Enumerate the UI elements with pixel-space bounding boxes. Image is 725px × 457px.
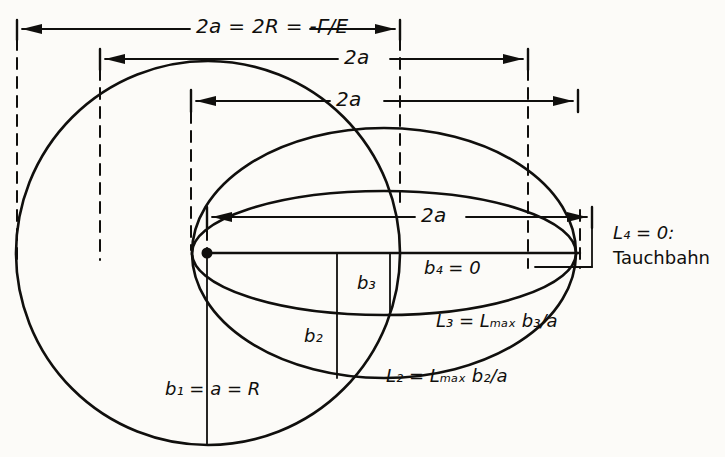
dimension-label-2: 2a xyxy=(344,45,370,69)
l4-annotation-line2: Tauchbahn xyxy=(613,247,710,268)
b3-label: b₃ xyxy=(357,272,376,293)
figure-canvas: 2a = 2R = -Γ/E 2a 2a 2a b₁ = a = R b₂ b₃… xyxy=(0,0,725,457)
dimension-label-3: 2a xyxy=(336,87,362,111)
l4-annotation-line1: L₄ = 0: xyxy=(613,222,674,243)
dimension-line-3 xyxy=(191,90,578,112)
dimension-label-4: 2a xyxy=(421,203,447,227)
dashed-reference-lines xyxy=(17,20,580,268)
l2-annotation: L₂ = Lₘₐₓ b₂/a xyxy=(386,365,508,386)
b1-label: b₁ = a = R xyxy=(165,378,260,399)
tauchbahn-bracket xyxy=(535,217,592,267)
l3-annotation: L₃ = Lₘₐₓ b₃/a xyxy=(436,310,558,331)
dimension-line-4 xyxy=(207,207,592,228)
dimension-label-1: 2a = 2R = -Γ/E xyxy=(196,14,348,38)
focus-point-marker xyxy=(202,248,213,259)
b4-label: b₄ = 0 xyxy=(424,257,481,278)
b2-label: b₂ xyxy=(304,325,323,346)
